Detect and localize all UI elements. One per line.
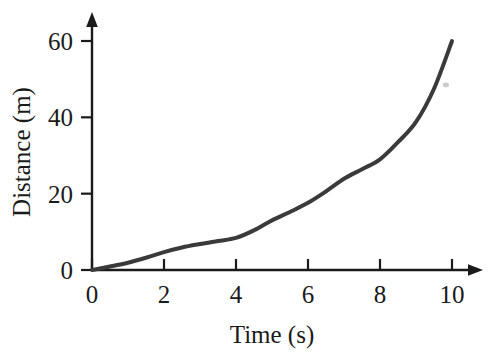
distance-curve	[92, 41, 452, 270]
x-tick-label: 2	[158, 281, 171, 308]
x-tick-label: 0	[86, 281, 99, 308]
x-axis-ticks	[92, 259, 452, 270]
y-axis-tick-labels: 0204060	[48, 28, 73, 284]
y-axis-ticks	[81, 41, 92, 270]
x-tick-label: 6	[302, 281, 315, 308]
chart-canvas: 0246810 0204060 Time (s) Distance (m)	[0, 0, 489, 352]
y-axis-title: Distance (m)	[8, 87, 36, 217]
y-tick-label: 40	[48, 104, 73, 131]
y-tick-label: 0	[61, 257, 74, 284]
x-tick-label: 4	[230, 281, 243, 308]
x-tick-label: 10	[440, 281, 465, 308]
y-tick-label: 20	[48, 181, 73, 208]
distance-time-chart: 0246810 0204060 Time (s) Distance (m)	[0, 0, 489, 352]
annotation-layer	[443, 83, 449, 88]
y-tick-label: 60	[48, 28, 73, 55]
x-axis-tick-labels: 0246810	[86, 281, 465, 308]
x-axis-title: Time (s)	[230, 321, 315, 349]
x-axis-arrow-icon	[468, 264, 483, 276]
stray-mark-icon	[443, 83, 449, 88]
x-tick-label: 8	[374, 281, 387, 308]
y-axis-arrow-icon	[86, 12, 98, 27]
axes-group	[86, 12, 483, 276]
